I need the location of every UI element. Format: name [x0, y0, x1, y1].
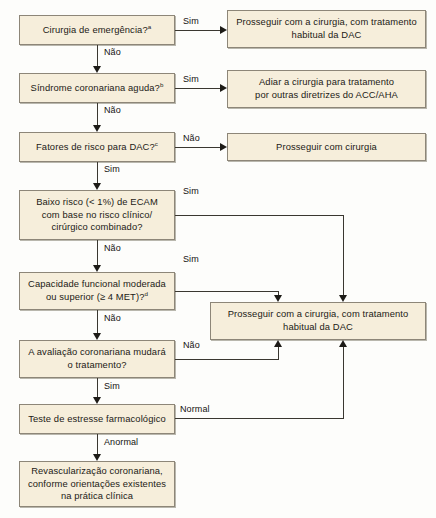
edge-label-acs-no: Não	[104, 105, 121, 115]
arrowhead-functional-yes	[274, 295, 282, 302]
edge-lowrisk-to-functional	[97, 240, 98, 265]
footnote-marker-c: c	[155, 140, 158, 147]
arrowhead-emergency-yes	[220, 26, 227, 34]
node-proceed-surgery-line1: Prosseguir com cirurgia	[276, 141, 377, 152]
edge-emergency-to-acs	[97, 45, 98, 66]
node-coronary-revascularization-line3: na prática clínica	[61, 490, 133, 501]
edge-stress-normal-v	[343, 347, 344, 418]
node-acute-coronary-syndrome: Síndrome coronariana aguda?b	[19, 73, 175, 103]
edge-functional-yes-h	[175, 291, 279, 292]
node-low-risk-ecam-line2: com base no risco clínico/	[42, 209, 152, 220]
edge-label-stress-normal: Normal	[180, 404, 210, 414]
node-proceed-surgery-dac-mid: Prosseguir com a cirurgia, com tratament…	[210, 302, 426, 340]
node-low-risk-ecam-line3: cirúrgico combinado?	[51, 221, 142, 232]
node-coronary-eval-changes-line1: A avaliação coronariana mudará	[28, 346, 165, 357]
arrowhead-stresstest-to-revascularization	[93, 454, 101, 461]
edge-lowrisk-yes-h	[175, 215, 344, 216]
edge-lowrisk-yes-v	[343, 215, 344, 295]
node-coronary-revascularization-line2: conforme orientações existentes	[28, 478, 166, 489]
node-coronary-revascularization-line1: Revascularização coronariana,	[31, 465, 163, 476]
edge-label-stress-abnormal: Anormal	[104, 437, 138, 447]
footnote-marker-b: b	[160, 81, 164, 88]
node-proceed-surgery-dac-top: Prosseguir com a cirurgia, com tratament…	[227, 10, 426, 48]
arrowhead-acs-to-riskfactors	[93, 125, 101, 132]
node-functional-capacity-line1: Capacidade funcional moderada	[28, 278, 166, 289]
edge-riskfactors-to-lowrisk	[97, 162, 98, 183]
arrowhead-riskfactors-to-lowrisk	[93, 183, 101, 190]
arrowhead-acs-yes	[220, 84, 227, 92]
edge-stresstest-to-revascularization	[97, 434, 98, 454]
node-dac-risk-factors: Fatores de risco para DAC?c	[19, 132, 175, 162]
edge-emergency-yes	[175, 30, 220, 31]
node-functional-capacity-line2: ou superior (≥ 4 MET)?	[46, 291, 145, 302]
flowchart-canvas: Cirurgia de emergência?a Síndrome corona…	[0, 0, 436, 518]
arrowhead-lowrisk-to-functional	[93, 265, 101, 272]
node-proceed-surgery: Prosseguir com cirurgia	[227, 133, 426, 161]
node-emergency-surgery-line1: Cirurgia de emergência?	[43, 24, 148, 35]
node-defer-surgery-acc-aha: Adiar a cirurgia para tratamento por out…	[227, 70, 426, 108]
edge-riskfactors-no	[175, 147, 220, 148]
footnote-marker-a: a	[148, 23, 152, 30]
node-coronary-eval-changes: A avaliação coronariana mudará o tratame…	[19, 340, 175, 378]
node-acute-coronary-syndrome-line1: Síndrome coronariana aguda?	[31, 82, 160, 93]
node-defer-surgery-acc-aha-line1: Adiar a cirurgia para tratamento	[259, 76, 394, 87]
node-low-risk-ecam-line1: Baixo risco (< 1%) de ECAM	[36, 196, 158, 207]
arrowhead-emergency-to-acs	[93, 66, 101, 73]
arrowhead-evalchange-to-stresstest	[93, 397, 101, 404]
node-coronary-revascularization: Revascularização coronariana, conforme o…	[19, 461, 175, 507]
edge-label-lowrisk-yes: Sim	[183, 186, 199, 196]
edge-acs-yes	[175, 88, 220, 89]
edge-label-lowrisk-no: Não	[104, 243, 121, 253]
edge-label-emergency-no: Não	[104, 47, 121, 57]
arrowhead-lowrisk-yes	[339, 295, 347, 302]
node-pharmacologic-stress-test: Teste de estresse farmacológico	[19, 404, 175, 434]
edge-acs-to-riskfactors	[97, 103, 98, 125]
edge-label-riskfactors-no: Não	[183, 133, 200, 143]
arrowhead-riskfactors-no	[220, 143, 227, 151]
edge-evalchange-no-h	[175, 359, 279, 360]
edge-label-functional-yes: Sim	[183, 254, 199, 264]
edge-evalchange-to-stresstest	[97, 378, 98, 397]
edge-label-evalchange-no: Não	[183, 340, 200, 350]
node-proceed-surgery-dac-mid-line2: habitual da DAC	[283, 321, 353, 332]
arrowhead-functional-to-evalchange	[93, 333, 101, 340]
edge-label-acs-yes: Sim	[183, 74, 199, 84]
arrowhead-stress-normal	[339, 340, 347, 347]
edge-label-evalchange-yes: Sim	[104, 381, 120, 391]
node-functional-capacity: Capacidade funcional moderada ou superio…	[19, 272, 175, 310]
node-pharmacologic-stress-test-line1: Teste de estresse farmacológico	[28, 413, 166, 424]
node-dac-risk-factors-line1: Fatores de risco para DAC?	[36, 141, 155, 152]
node-proceed-surgery-dac-top-line2: habitual da DAC	[292, 29, 362, 40]
footnote-marker-d: d	[144, 290, 148, 297]
edge-functional-to-evalchange	[97, 310, 98, 333]
node-emergency-surgery: Cirurgia de emergência?a	[19, 15, 175, 45]
edge-label-functional-no: Não	[104, 313, 121, 323]
node-defer-surgery-acc-aha-line2: por outras diretrizes do ACC/AHA	[255, 89, 398, 100]
node-proceed-surgery-dac-mid-line1: Prosseguir com a cirurgia, com tratament…	[228, 308, 409, 319]
node-low-risk-ecam: Baixo risco (< 1%) de ECAM com base no r…	[19, 190, 175, 240]
edge-label-riskfactors-yes: Sim	[104, 164, 120, 174]
node-coronary-eval-changes-line2: o tratamento?	[67, 359, 126, 370]
edge-stress-normal-h	[175, 418, 344, 419]
edge-label-emergency-yes: Sim	[183, 16, 199, 26]
edge-evalchange-no-v	[278, 347, 279, 359]
arrowhead-evalchange-no	[274, 340, 282, 347]
node-proceed-surgery-dac-top-line1: Prosseguir com a cirurgia, com tratament…	[236, 16, 417, 27]
